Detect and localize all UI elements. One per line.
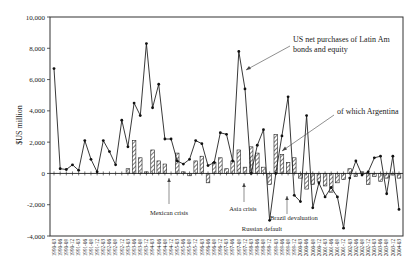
y-tick-label: -4,000 — [27, 233, 46, 241]
plot-frame — [50, 17, 403, 236]
y-axis-label: $US million — [15, 105, 24, 144]
x-tick-label: 1999-09 — [285, 239, 291, 257]
line-marker — [77, 169, 80, 172]
x-tick-label: 2002-03 — [347, 239, 353, 257]
line-marker — [133, 102, 136, 105]
x-tick-label: 1997-12 — [242, 239, 248, 257]
argentina-bar — [138, 158, 142, 174]
x-tick-label: 1992-09 — [112, 239, 118, 257]
x-tick-label: 1995-12 — [192, 239, 198, 257]
x-tick-label: 1996-06 — [205, 239, 211, 257]
x-tick-label: 1997-06 — [229, 239, 235, 257]
line-marker — [207, 164, 210, 167]
line-marker — [348, 177, 351, 180]
line-marker — [385, 192, 388, 195]
y-tick-label: 8,000 — [29, 45, 45, 53]
x-tick-label: 2002-12 — [365, 239, 371, 257]
x-tick-label: 1993-06 — [131, 239, 137, 257]
line-marker — [361, 174, 364, 177]
y-tick-label: -2,000 — [27, 201, 46, 209]
x-tick-label: 1997-09 — [236, 239, 242, 257]
line-marker — [151, 106, 154, 109]
x-tick-label: 1991-03 — [75, 239, 81, 257]
y-tick-label: 4,000 — [29, 107, 45, 115]
x-tick-label: 1995-03 — [174, 239, 180, 257]
x-tick-label: 1992-06 — [106, 239, 112, 257]
line-marker — [237, 50, 240, 53]
x-tick-label: 1990-06 — [57, 239, 63, 257]
line-marker — [188, 158, 191, 161]
line-marker — [324, 195, 327, 198]
annotation-us-purchases-line2: bonds and equity — [293, 45, 348, 54]
x-tick-label: 2003-06 — [377, 239, 383, 257]
line-marker — [287, 95, 290, 98]
x-tick-label: 2001-12 — [340, 239, 346, 257]
line-marker — [83, 139, 86, 142]
line-marker — [293, 194, 296, 197]
line-marker — [176, 160, 179, 163]
line-marker — [182, 163, 185, 166]
y-tick-label: 0 — [42, 170, 46, 178]
annotation-mexican-crisis: Mexican crisis — [150, 209, 189, 216]
argentina-bar — [200, 156, 204, 173]
line-marker — [373, 156, 376, 159]
x-tick-label: 1996-03 — [199, 239, 205, 257]
line-marker — [114, 163, 117, 166]
line-marker — [379, 155, 382, 158]
x-tick-label: 1999-12 — [291, 239, 297, 257]
x-tick-label: 2002-06 — [353, 239, 359, 257]
x-tick-label: 1998-03 — [248, 239, 254, 257]
us-purchases-line — [53, 42, 401, 229]
x-tick-label: 2000-03 — [297, 239, 303, 257]
argentina-bar — [237, 150, 241, 173]
x-tick-label: 1998-12 — [266, 239, 272, 257]
x-tick-label: 2003-03 — [371, 239, 377, 257]
x-tick-label: 1991-12 — [94, 239, 100, 257]
x-tick-label: 2002-09 — [359, 239, 365, 257]
line-marker — [139, 114, 142, 117]
line-marker — [53, 67, 56, 70]
annotation-us-purchases: US net purchases of Latin Am — [293, 35, 390, 44]
x-tick-label: 1993-03 — [125, 239, 131, 257]
line-marker — [354, 160, 357, 163]
chart-canvas: 10,0008,0006,0004,0002,0000-2,000-4,000 … — [0, 0, 418, 277]
line-marker — [170, 138, 173, 141]
x-tick-label: 2000-09 — [310, 239, 316, 257]
line-marker — [59, 167, 62, 170]
x-tick-label: 1992-12 — [119, 239, 125, 257]
x-tick-label: 1990-12 — [69, 239, 75, 257]
line-marker — [262, 128, 265, 131]
line-marker — [120, 119, 123, 122]
line-marker — [398, 208, 401, 211]
argentina-bar — [305, 173, 309, 189]
x-tick-label: 1990-03 — [51, 239, 57, 257]
x-tick-label: 1999-06 — [279, 239, 285, 257]
x-tick-label: 1995-06 — [180, 239, 186, 257]
x-tick-label: 1996-12 — [217, 239, 223, 257]
argentina-bar — [219, 158, 223, 174]
argentina-bar — [132, 141, 136, 174]
line-marker — [318, 181, 321, 184]
x-tick-label: 1991-09 — [88, 239, 94, 257]
x-tick-label: 2000-12 — [316, 239, 322, 257]
line-marker — [391, 155, 394, 158]
line-marker — [96, 170, 99, 173]
x-tick-label: 2004-03 — [396, 239, 402, 257]
line-marker — [90, 158, 93, 161]
line-marker — [225, 133, 228, 136]
y-tick-label: 10,000 — [26, 14, 46, 22]
line-marker — [274, 172, 277, 175]
x-tick-label: 1997-03 — [223, 239, 229, 257]
line-marker — [219, 131, 222, 134]
line-marker — [231, 160, 234, 163]
line-marker — [102, 139, 105, 142]
line-marker — [336, 195, 339, 198]
x-tick-label: 1998-06 — [254, 239, 260, 257]
argentina-bar — [280, 155, 284, 174]
line-marker — [342, 227, 345, 230]
x-tick-label: 2000-06 — [303, 239, 309, 257]
line-marker — [108, 150, 111, 153]
line-marker — [127, 145, 130, 148]
annotation-russian-default: Russian default — [242, 225, 282, 232]
line-marker — [281, 134, 284, 137]
